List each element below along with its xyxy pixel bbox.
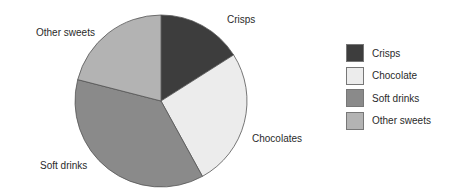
legend: Crisps Chocolate Soft drinks Other sweet… <box>346 42 431 132</box>
legend-swatch-soft-drinks <box>346 89 364 107</box>
legend-swatch-other-sweets <box>346 112 364 130</box>
legend-swatch-chocolate <box>346 67 364 85</box>
legend-label: Soft drinks <box>372 93 419 104</box>
legend-swatch-crisps <box>346 44 364 62</box>
legend-label: Other sweets <box>372 115 431 126</box>
legend-item-soft-drinks: Soft drinks <box>346 87 431 110</box>
legend-item-chocolate: Chocolate <box>346 65 431 88</box>
legend-label: Chocolate <box>372 70 417 81</box>
slice-label-chocolates: Chocolates <box>252 133 302 144</box>
slice-label-other-sweets: Other sweets <box>36 27 95 38</box>
slice-label-soft-drinks: Soft drinks <box>40 160 87 171</box>
legend-item-other-sweets: Other sweets <box>346 110 431 133</box>
legend-label: Crisps <box>372 48 400 59</box>
legend-item-crisps: Crisps <box>346 42 431 65</box>
slice-label-crisps: Crisps <box>227 14 255 25</box>
